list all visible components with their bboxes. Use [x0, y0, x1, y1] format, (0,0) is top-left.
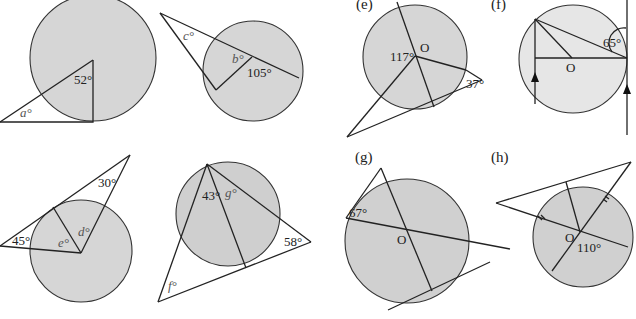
angle-label-45: 45°: [12, 233, 30, 248]
diagram-d: 43° g° 58° f°: [158, 162, 311, 302]
circle: [533, 187, 633, 287]
diagram-a: 52° a°: [0, 0, 156, 122]
angle-label-105: 105°: [247, 65, 272, 80]
circle: [176, 162, 280, 266]
diagram-g: (g) 67° O: [345, 149, 510, 310]
angle-label-c: c°: [183, 28, 194, 43]
diagram-e: (e) O 117° 37°: [347, 0, 484, 137]
angle-label-e: e°: [58, 235, 69, 250]
parallel-arrow-icon: [623, 84, 631, 94]
diagram-b: c° b° 105°: [160, 13, 303, 121]
angle-label-f: f°: [168, 278, 177, 293]
circle: [30, 200, 132, 302]
angle-label-67: 67°: [349, 205, 367, 220]
angle-label-d: d°: [78, 224, 90, 239]
angle-label-b: b°: [232, 51, 244, 66]
circle-theorem-diagrams: 52° a° c° b° 105° (e) O 117° 37° (f): [0, 0, 636, 319]
diagram-c: 30° 45° e° d°: [0, 155, 132, 302]
diagram-h: (h) O 110°: [491, 149, 633, 287]
angle-label-30: 30°: [98, 175, 116, 190]
angle-label-65: 65°: [603, 35, 621, 50]
angle-label-a: a°: [20, 105, 32, 120]
panel-label-e: (e): [356, 0, 373, 13]
angle-label-117: 117°: [390, 49, 414, 64]
center-label-O: O: [566, 60, 575, 75]
angle-label-43: 43°: [202, 188, 220, 203]
panel-label-g: (g): [355, 149, 373, 166]
circle: [345, 179, 469, 303]
angle-label-37: 37°: [466, 76, 484, 91]
center-label-O: O: [397, 232, 406, 247]
center-label-O: O: [420, 40, 429, 55]
angle-label-110: 110°: [577, 240, 601, 255]
angle-label-58: 58°: [284, 234, 302, 249]
angle-label-g: g°: [225, 185, 237, 200]
center-label-O: O: [565, 230, 574, 245]
angle-label-52: 52°: [74, 72, 92, 87]
panel-label-f: (f): [491, 0, 506, 13]
panel-label-h: (h): [491, 149, 509, 166]
diagram-f: (f) O 65°: [491, 0, 631, 135]
